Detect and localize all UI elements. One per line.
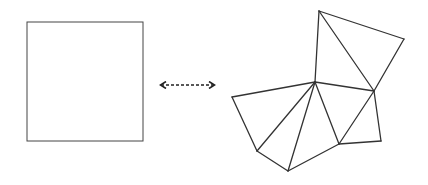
net-edge-T-C bbox=[315, 11, 319, 82]
net-edge-C-BM bbox=[315, 82, 339, 144]
diagram-svg bbox=[0, 0, 428, 185]
net-edge-C-L bbox=[232, 82, 315, 97]
net-edge-T-R bbox=[319, 11, 404, 39]
net-edge-B-BM bbox=[288, 144, 339, 171]
polygon-net bbox=[232, 11, 404, 171]
net-edge-R-M bbox=[374, 39, 404, 91]
net-edge-T-M bbox=[319, 11, 374, 91]
net-edge-C-M bbox=[315, 82, 374, 91]
net-edge-L-BL bbox=[232, 97, 257, 151]
square-shape bbox=[27, 22, 143, 141]
diagram-canvas bbox=[0, 0, 428, 185]
net-edge-BL-B bbox=[257, 151, 288, 171]
net-edge-M-BR bbox=[374, 91, 381, 141]
net-edge-BM-M bbox=[339, 91, 374, 144]
net-edge-C-BL bbox=[257, 82, 315, 151]
net-edge-BR-BM bbox=[339, 141, 381, 144]
net-edge-C-B bbox=[288, 82, 315, 171]
